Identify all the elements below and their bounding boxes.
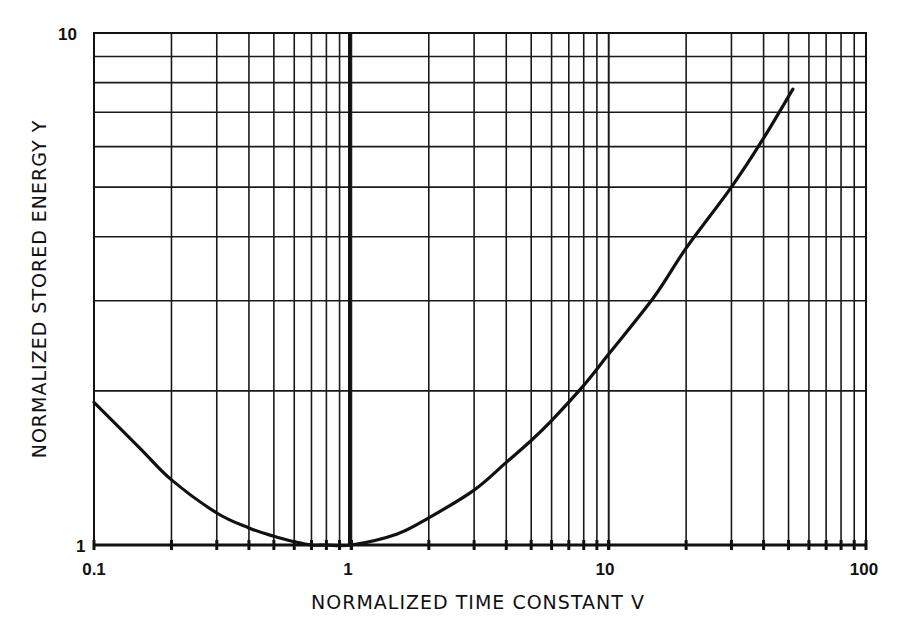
x-tick-label-100: 100 bbox=[850, 560, 878, 579]
x-tick-label-0.1: 0.1 bbox=[82, 560, 106, 579]
y-tick-label-1: 1 bbox=[76, 537, 85, 556]
y-axis-title: NORMALIZED STORED ENERGY Y bbox=[28, 120, 50, 459]
x-tick-label-10: 10 bbox=[596, 560, 615, 579]
data-curve bbox=[94, 89, 793, 546]
x-axis-title: NORMALIZED TIME CONSTANT V bbox=[311, 591, 645, 613]
plot-frame bbox=[94, 33, 866, 545]
x-tick-label-1: 1 bbox=[343, 560, 352, 579]
y-tick-label-10: 10 bbox=[58, 25, 77, 44]
grid-lines bbox=[94, 33, 866, 545]
chart: 10 1 0.1 1 10 100 NORMALIZED TIME CONSTA… bbox=[0, 0, 899, 639]
